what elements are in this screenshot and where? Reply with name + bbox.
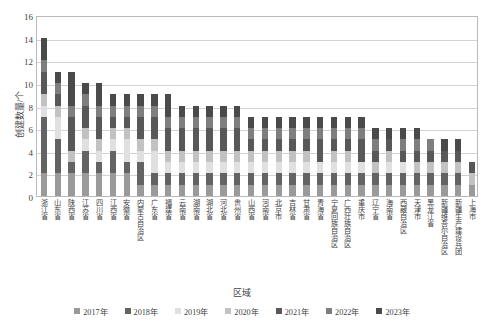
- bar-stack: [41, 38, 47, 196]
- bar-column[interactable]: [124, 17, 130, 196]
- bar-segment: [151, 106, 157, 117]
- bar-column[interactable]: [234, 17, 240, 196]
- bar-segment: [262, 185, 268, 196]
- bar-segment: [331, 139, 337, 150]
- bar-stack: [248, 117, 254, 196]
- x-tick-label: 贵州省: [233, 199, 240, 220]
- bar-segment: [331, 185, 337, 196]
- bar-column[interactable]: [455, 17, 461, 196]
- bar-segment: [248, 185, 254, 196]
- bar-segment: [400, 173, 406, 184]
- bar-column[interactable]: [165, 17, 171, 196]
- bars-layer: [37, 17, 477, 196]
- bar-column[interactable]: [317, 17, 323, 196]
- y-tick-label: 14: [24, 35, 33, 45]
- bar-column[interactable]: [206, 17, 212, 196]
- x-tick-label: 河北省: [219, 199, 226, 220]
- bar-segment: [55, 83, 61, 94]
- bar-column[interactable]: [276, 17, 282, 196]
- bar-column[interactable]: [193, 17, 199, 196]
- bar-column[interactable]: [345, 17, 351, 196]
- bar-column[interactable]: [427, 17, 433, 196]
- x-axis-labels: 浙江省山东省陕西省江苏省四川省江西省安徽省内蒙古自治区广东省福建省云南省湖南省湖…: [36, 199, 478, 285]
- bar-segment: [248, 128, 254, 139]
- bar-segment: [345, 162, 351, 173]
- bar-segment: [414, 185, 420, 196]
- bar-stack: [469, 162, 475, 196]
- bar-column[interactable]: [414, 17, 420, 196]
- bar-column[interactable]: [137, 17, 143, 196]
- bar-column[interactable]: [469, 17, 475, 196]
- bar-column[interactable]: [55, 17, 61, 196]
- bar-stack: [358, 117, 364, 196]
- bar-stack: [82, 83, 88, 196]
- bar-segment: [427, 185, 433, 196]
- bar-segment: [276, 151, 282, 162]
- bar-column[interactable]: [358, 17, 364, 196]
- bar-column[interactable]: [303, 17, 309, 196]
- bar-segment: [68, 72, 74, 106]
- bar-column[interactable]: [248, 17, 254, 196]
- bar-stack: [303, 117, 309, 196]
- bar-segment: [220, 185, 226, 196]
- bar-column[interactable]: [151, 17, 157, 196]
- bar-segment: [193, 185, 199, 196]
- bar-segment: [331, 151, 337, 162]
- bar-segment: [68, 151, 74, 162]
- bar-segment: [179, 117, 185, 128]
- bar-stack: [262, 117, 268, 196]
- bar-column[interactable]: [289, 17, 295, 196]
- bar-segment: [137, 106, 143, 117]
- bar-segment: [137, 94, 143, 105]
- bar-segment: [179, 162, 185, 173]
- bar-column[interactable]: [331, 17, 337, 196]
- bar-segment: [110, 128, 116, 139]
- bar-stack: [427, 139, 433, 196]
- bar-column[interactable]: [82, 17, 88, 196]
- legend-item[interactable]: 2022年: [326, 305, 359, 317]
- bar-column[interactable]: [441, 17, 447, 196]
- legend-label: 2020年: [234, 305, 258, 317]
- bar-segment: [303, 117, 309, 128]
- bar-column[interactable]: [372, 17, 378, 196]
- bar-segment: [276, 128, 282, 139]
- bar-segment: [55, 72, 61, 83]
- bar-segment: [331, 128, 337, 139]
- bar-segment: [110, 173, 116, 196]
- bar-column[interactable]: [262, 17, 268, 196]
- bar-column[interactable]: [386, 17, 392, 196]
- bar-segment: [179, 106, 185, 117]
- legend-item[interactable]: 2020年: [225, 305, 258, 317]
- legend-item[interactable]: 2019年: [175, 305, 208, 317]
- bar-segment: [55, 173, 61, 196]
- legend-item[interactable]: 2023年: [376, 305, 409, 317]
- bar-stack: [96, 83, 102, 196]
- bar-column[interactable]: [96, 17, 102, 196]
- x-tick-label: 内蒙古自治区: [136, 199, 143, 241]
- y-tick-label: 12: [24, 57, 33, 67]
- bar-segment: [400, 128, 406, 139]
- bar-segment: [137, 151, 143, 162]
- bar-segment: [82, 128, 88, 139]
- bar-segment: [220, 162, 226, 173]
- bar-segment: [82, 106, 88, 129]
- x-tick-label: 黑龙江省: [426, 199, 433, 227]
- y-axis-title: 创建数量/个: [13, 55, 26, 175]
- legend-item[interactable]: 2017年: [74, 305, 107, 317]
- bar-column[interactable]: [179, 17, 185, 196]
- legend-item[interactable]: 2021年: [276, 305, 309, 317]
- x-tick-label: 浙江省: [39, 199, 46, 220]
- y-tick-label: 16: [24, 12, 33, 22]
- x-tick-label: 新疆生产建设兵团: [454, 199, 461, 255]
- legend-item[interactable]: 2018年: [125, 305, 158, 317]
- x-tick-label: 辽宁省: [371, 199, 378, 220]
- bar-column[interactable]: [110, 17, 116, 196]
- legend-swatch-icon: [225, 308, 231, 314]
- bar-column[interactable]: [41, 17, 47, 196]
- bar-stack: [386, 128, 392, 196]
- bar-segment: [262, 128, 268, 139]
- bar-column[interactable]: [400, 17, 406, 196]
- bar-segment: [469, 185, 475, 196]
- bar-column[interactable]: [68, 17, 74, 196]
- bar-column[interactable]: [220, 17, 226, 196]
